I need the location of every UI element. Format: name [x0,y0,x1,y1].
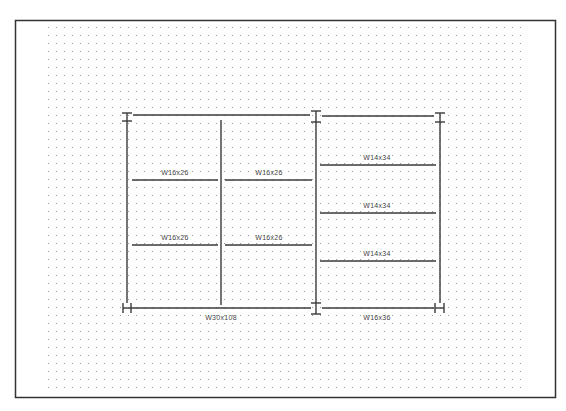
grid-dot [192,299,193,300]
grid-dot [432,259,433,260]
grid-dot [112,163,113,164]
grid-dot [72,251,73,252]
grid-dot [336,179,337,180]
grid-dot [512,315,513,316]
grid-dot [136,203,137,204]
grid-dot [272,27,273,28]
grid-dot [280,299,281,300]
grid-dot [336,339,337,340]
grid-dot [184,283,185,284]
grid-dot [400,235,401,236]
grid-dot [136,267,137,268]
grid-dot [384,379,385,380]
grid-dot [280,211,281,212]
grid-dot [312,315,313,316]
column-top-right[interactable] [435,113,445,122]
grid-dot [512,179,513,180]
grid-dot [280,43,281,44]
grid-dot [336,291,337,292]
grid-dot [392,67,393,68]
grid-dot [88,59,89,60]
column-bottom-left[interactable] [123,303,131,313]
grid-dot [352,75,353,76]
column-bottom-right[interactable] [435,303,444,313]
grid-dot [200,259,201,260]
grid-dot [344,379,345,380]
grid-dot [248,83,249,84]
grid-dot [440,99,441,100]
grid-dot [136,379,137,380]
grid-dot [200,363,201,364]
grid-dot [136,227,137,228]
grid-dot [504,283,505,284]
grid-dot [360,203,361,204]
grid-dot [464,355,465,356]
grid-dot [152,59,153,60]
grid-dot [480,315,481,316]
grid-dot [152,251,153,252]
grid-dot [128,155,129,156]
grid-dot [512,339,513,340]
column-bottom-middle[interactable] [311,303,321,314]
grid-dot [416,267,417,268]
grid-dot [432,51,433,52]
grid-dot [400,195,401,196]
grid-dot [176,379,177,380]
grid-dot [72,219,73,220]
grid-dot [160,251,161,252]
grid-dot [136,299,137,300]
grid-dot [520,227,521,228]
grid-dot [424,75,425,76]
column-top-left[interactable] [122,113,132,121]
grid-dot [48,43,49,44]
grid-dot [240,27,241,28]
grid-dot [96,219,97,220]
grid-dot [192,283,193,284]
grid-dot [232,67,233,68]
grid-dot [408,243,409,244]
grid-dot [56,387,57,388]
grid-dot [496,307,497,308]
grid-dot [72,51,73,52]
grid-dot [96,259,97,260]
grid-dot [288,51,289,52]
grid-dot [208,203,209,204]
grid-dot [336,219,337,220]
grid-dot [56,75,57,76]
grid-dot [408,163,409,164]
grid-dot [408,139,409,140]
grid-dot [336,83,337,84]
grid-dot [128,131,129,132]
grid-dot [240,283,241,284]
grid-dot [456,275,457,276]
grid-dot [280,355,281,356]
grid-dot [312,75,313,76]
grid-dot [472,219,473,220]
grid-dot [120,291,121,292]
grid-dot [448,155,449,156]
grid-dot [480,371,481,372]
grid-dot [296,171,297,172]
grid-dot [488,163,489,164]
grid-dot [312,43,313,44]
grid-dot [488,331,489,332]
grid-dot [440,35,441,36]
grid-dot [488,43,489,44]
column-top-middle[interactable] [311,111,321,122]
grid-dot [104,99,105,100]
grid-dot [80,155,81,156]
grid-dot [488,259,489,260]
grid-dot [56,315,57,316]
grid-dot [248,99,249,100]
grid-dot [80,291,81,292]
grid-dot [56,27,57,28]
grid-dot [248,51,249,52]
grid-dot [104,115,105,116]
grid-dot [64,323,65,324]
grid-dot [288,243,289,244]
grid-dot [464,227,465,228]
grid-dot [416,43,417,44]
grid-dot [136,51,137,52]
grid-dot [376,83,377,84]
grid-dot [472,299,473,300]
